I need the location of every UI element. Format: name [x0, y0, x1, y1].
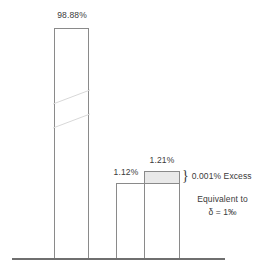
equivalent-note-line-1: Equivalent to — [197, 194, 247, 204]
bar-chart: 98.88% 1.12% 1.21% } 0.001% Excess Equiv… — [0, 0, 267, 273]
bar-column-3-excess-segment — [144, 171, 180, 184]
excess-callout: } 0.001% Excess — [182, 169, 252, 183]
bar-value-label-2: 1.12% — [108, 167, 144, 177]
equivalent-note: Equivalent to δ = 1‰ — [180, 193, 265, 219]
equivalent-note-line-2: δ = 1‰ — [180, 206, 265, 219]
axis-baseline — [12, 258, 225, 260]
excess-callout-label: 0.001% Excess — [192, 171, 252, 181]
plot-area: 98.88% 1.12% 1.21% } 0.001% Excess Equiv… — [0, 0, 267, 273]
bar-value-label-1: 98.88% — [52, 10, 92, 20]
bar-column-3 — [144, 183, 180, 259]
bar-column-2 — [116, 183, 145, 259]
bar-column-1 — [54, 28, 89, 259]
bar-value-label-3: 1.21% — [144, 155, 180, 165]
curly-brace-icon: } — [182, 169, 189, 183]
